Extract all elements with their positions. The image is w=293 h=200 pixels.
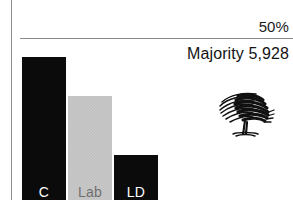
scribbled-tree-logo (212, 86, 278, 140)
bar-label-conservative: C (22, 185, 66, 199)
bar-conservative: C (22, 57, 66, 200)
bar-liberal-democrat: LD (114, 155, 158, 200)
bar-labour: Lab (68, 96, 112, 200)
bar-label-labour: Lab (68, 185, 112, 199)
bar-label-liberal-democrat: LD (114, 185, 158, 199)
election-bar-chart: 50% Majority 5,928 C Lab LD (0, 0, 293, 200)
